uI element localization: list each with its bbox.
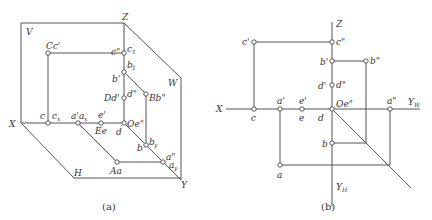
- point-b: [330, 141, 334, 145]
- axis-x-label: X: [8, 119, 16, 129]
- label-c-prime: c': [242, 37, 250, 47]
- label-Bb: Bb": [148, 93, 166, 103]
- point-c: [252, 107, 256, 111]
- label-Cc: Cc': [46, 41, 60, 51]
- origin-label: Oe": [127, 119, 144, 129]
- point-d2: [330, 83, 334, 87]
- 45-degree-line: [332, 109, 411, 188]
- label-a-prime: a': [71, 111, 79, 121]
- label-e: e: [299, 113, 304, 123]
- axis-z-label: Z: [121, 12, 129, 22]
- plane-h-label: H: [73, 168, 82, 178]
- label-b: b: [137, 143, 143, 153]
- label-e-prime: e': [98, 110, 106, 120]
- label-c: c: [251, 113, 256, 123]
- origin-label: Oe": [336, 99, 353, 109]
- axis-z-label: Z: [335, 19, 343, 29]
- label-d-prime: d': [318, 81, 326, 91]
- point-a2: [388, 107, 392, 111]
- figure-b: Z X Oe" Y W Y H c' c" b' b" d' d" a' e' …: [215, 19, 421, 212]
- point-by: [144, 143, 148, 147]
- label-c: c: [40, 111, 45, 121]
- label-b-prime: b': [320, 57, 328, 67]
- point-O: [330, 107, 334, 111]
- label-c2: c": [111, 47, 120, 57]
- point-Cc: [46, 51, 50, 55]
- point-e-prime: [99, 121, 103, 125]
- label-d: d: [116, 127, 122, 137]
- plane-v-label: V: [26, 27, 34, 37]
- point-Bb: [144, 92, 148, 96]
- point-c-prime: [252, 40, 256, 44]
- label-b1-sub: 1: [132, 64, 136, 71]
- point-cx: [46, 121, 50, 125]
- label-e-prime: e': [299, 96, 307, 106]
- v-plane-outline: [21, 23, 124, 123]
- point-ay: [161, 160, 165, 164]
- label-Dd: Dd': [103, 93, 119, 103]
- label-Aa: Aa: [109, 166, 122, 176]
- point-Aa: [115, 160, 119, 164]
- label-d: d: [318, 113, 324, 123]
- point-c2: [330, 40, 334, 44]
- label-by-sub: y: [153, 141, 158, 149]
- label-d2: d": [127, 89, 137, 99]
- label-ay-sub: y: [173, 164, 178, 172]
- caption-a: (a): [102, 201, 116, 212]
- projection-diagram: V W H Z X Y Oe" Cc' c" c 1 b 1 b' Dd' d"…: [0, 0, 432, 220]
- label-c1-sub: 1: [132, 48, 136, 55]
- point-b1: [122, 70, 126, 74]
- point-a: [278, 163, 282, 167]
- label-Ee: Ee: [94, 126, 107, 136]
- label-a-prime: a': [277, 96, 285, 106]
- point-b-prime: [330, 59, 334, 63]
- label-ax-sub: x: [84, 115, 88, 122]
- point-c2: [122, 51, 126, 55]
- point-a-prime: [278, 107, 282, 111]
- figure-a: V W H Z X Y Oe" Cc' c" c 1 b 1 b' Dd' d"…: [8, 12, 188, 212]
- label-b2: b": [370, 56, 380, 66]
- point-O: [122, 121, 126, 125]
- label-b-prime: b': [112, 74, 120, 84]
- point-e-prime: [300, 107, 304, 111]
- caption-b: (b): [321, 201, 335, 212]
- label-cx-sub: x: [57, 115, 61, 122]
- label-d2: d": [336, 80, 346, 90]
- label-a: a: [277, 170, 282, 180]
- point-b2: [364, 59, 368, 63]
- axis-y-label: Y: [181, 180, 188, 190]
- label-b: b: [322, 139, 328, 149]
- label-a2: a": [387, 96, 397, 106]
- point-d2: [122, 96, 126, 100]
- axis-x-label: X: [215, 104, 223, 114]
- plane-w-label: W: [168, 78, 178, 88]
- point-ax: [76, 121, 80, 125]
- label-c2: c": [336, 37, 345, 47]
- axis-yw-sub: W: [414, 101, 421, 108]
- axis-yh-sub: H: [341, 186, 348, 193]
